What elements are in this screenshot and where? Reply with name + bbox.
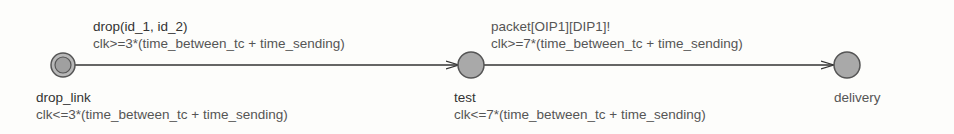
invariant-test: clk<=7*(time_between_tc + time_sending) — [454, 107, 706, 123]
state-test[interactable] — [458, 52, 484, 78]
guard-label-packet: clk>=7*(time_between_tc + time_sending) — [491, 36, 743, 52]
state-name-drop-link: drop_link — [36, 90, 91, 106]
invariant-drop-link: clk<=3*(time_between_tc + time_sending) — [36, 107, 288, 123]
sync-label-drop: drop(id_1, id_2) — [93, 19, 188, 35]
sync-label-packet: packet[OIP1][DIP1]! — [491, 19, 610, 35]
state-delivery[interactable] — [834, 52, 860, 78]
state-name-test: test — [454, 90, 476, 106]
state-drop-link[interactable] — [51, 53, 75, 77]
state-name-delivery: delivery — [834, 90, 881, 106]
guard-label-drop: clk>=3*(time_between_tc + time_sending) — [93, 36, 345, 52]
